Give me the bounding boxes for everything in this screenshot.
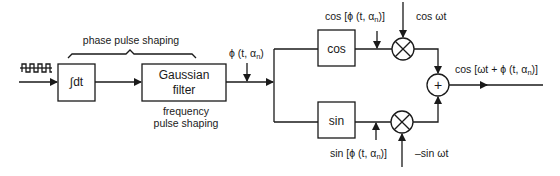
top-mixer — [392, 38, 414, 60]
integrator-block: ∫dt — [58, 64, 95, 101]
plus-symbol: + — [434, 77, 442, 93]
integrator-label: ∫dt — [69, 75, 84, 89]
output-label: cos [ωt + ϕ (t, αn)] — [455, 63, 538, 77]
cos-block: cos — [318, 30, 355, 66]
cos-label: cos — [327, 42, 346, 56]
sin-phi-label: sin [ϕ (t, αn)] — [330, 147, 387, 161]
square-wave-data-icon — [20, 64, 52, 72]
bottom-mixer-to-summer-arrow — [413, 97, 438, 122]
phi-label: ϕ (t, αn) — [229, 47, 264, 61]
pulse-shaping-label: pulse shaping — [154, 117, 219, 129]
bottom-mixer — [391, 111, 413, 133]
gaussian-label: Gaussian — [159, 68, 210, 82]
cos-phi-label: cos [ϕ (t, αn)] — [325, 10, 385, 24]
summer: + — [427, 74, 449, 96]
phase-pulse-shaping-brace: phase pulse shaping — [68, 34, 196, 58]
gaussian-filter-block: Gaussian filter — [142, 64, 226, 101]
phase-pulse-shaping-label: phase pulse shaping — [83, 34, 179, 46]
gmsk-modulator-diagram: ∫dt phase pulse shaping Gaussian filter … — [0, 0, 560, 176]
frequency-label: frequency — [163, 105, 210, 117]
minus-sin-wt-label: –sin ωt — [415, 147, 448, 159]
cos-wt-label: cos ωt — [416, 10, 446, 22]
sin-label: sin — [329, 114, 344, 128]
filter-label: filter — [173, 83, 196, 97]
sin-block: sin — [318, 102, 355, 138]
top-mixer-to-summer-arrow — [414, 49, 438, 73]
